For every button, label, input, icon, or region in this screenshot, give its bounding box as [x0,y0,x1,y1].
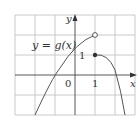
origin-label: 0 [65,78,71,89]
axes [15,18,132,115]
curve-right-branch [95,55,125,115]
y-axis-label: y [65,13,72,24]
x-axis-label: x [130,78,136,89]
closed-dot-point [93,53,97,57]
y-tick-1: 1 [79,50,85,61]
open-circle-point [93,33,98,38]
graph-figure: y = g(x) y x 0 1 1 [0,0,138,123]
x-tick-1: 1 [92,78,98,89]
x-axis-arrow-icon [130,73,137,78]
function-label: y = g(x) [31,39,76,52]
